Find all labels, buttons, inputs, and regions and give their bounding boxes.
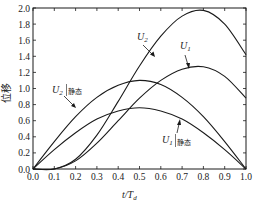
x-tick-label: 0.8 (197, 172, 209, 182)
annotation-u1: U1 (180, 40, 191, 69)
x-tick-label: 0.3 (91, 172, 103, 182)
x-tick-label: 0.6 (155, 172, 167, 182)
annotation-u2-static: U2 静态 (52, 84, 82, 108)
displacement-chart: 0.00.10.20.30.40.50.60.70.80.91.0 0.00.2… (0, 0, 256, 207)
y-tick-label: 2.0 (18, 4, 30, 14)
x-tick-label: 0.1 (48, 172, 60, 182)
y-tick-label: 1.2 (18, 68, 30, 78)
x-tick-label: 0.4 (112, 172, 124, 182)
y-tick-label: 0.8 (18, 100, 30, 110)
svg-text:U1: U1 (180, 40, 191, 53)
svg-text:U2: U2 (52, 84, 63, 97)
svg-text:U1: U1 (162, 134, 173, 147)
x-tick-label: 0.7 (176, 172, 188, 182)
y-tick-label: 0.0 (18, 165, 30, 175)
y-tick-label: 1.6 (18, 36, 30, 46)
y-tick-label: 1.8 (18, 20, 30, 30)
x-axis-label: t/Td (122, 189, 137, 202)
y-tick-label: 1.0 (18, 84, 30, 94)
curve-u1 (33, 66, 246, 169)
x-tick-label: 0.9 (219, 172, 231, 182)
annotation-u1-static: U1 静态 (162, 119, 191, 147)
svg-text:静态: 静态 (177, 138, 191, 147)
x-tick-label: 1.0 (240, 172, 252, 182)
y-tick-label: 0.6 (18, 116, 30, 126)
y-axis-label: 位移 (0, 83, 12, 103)
svg-text:静态: 静态 (68, 87, 82, 96)
curve-u2-static (33, 80, 246, 169)
x-tick-label: 0.5 (134, 172, 146, 182)
svg-text:U2: U2 (137, 31, 148, 44)
curve-u1-static (33, 108, 246, 169)
annotation-u2: U2 (137, 31, 155, 57)
y-tick-label: 0.4 (18, 132, 30, 142)
x-tick-label: 0.2 (70, 172, 82, 182)
y-tick-label: 0.2 (18, 148, 30, 158)
y-tick-label: 1.4 (18, 52, 30, 62)
